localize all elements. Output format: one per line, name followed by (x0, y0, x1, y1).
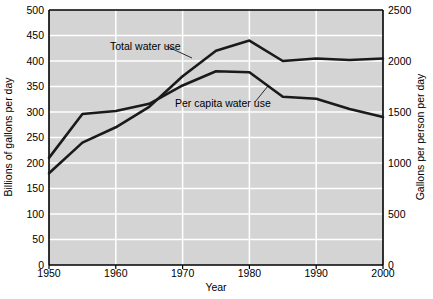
y-tick-label-left: 300 (26, 106, 44, 118)
y-tick-label-left: 450 (26, 29, 44, 41)
y-tick-label-left: 500 (26, 4, 44, 16)
annotation-total-water-use: Total water use (110, 40, 181, 52)
x-axis-title: Year (205, 281, 227, 293)
y-tick-label-left: 100 (26, 208, 44, 220)
y-tick-label-left: 350 (26, 80, 44, 92)
y-tick-label-right: 1000 (388, 157, 412, 169)
y-tick-label-right: 2500 (388, 4, 412, 16)
y-tick-label-left: 250 (26, 131, 44, 143)
annotation-per-capita-water-use: Per capita water use (175, 97, 271, 109)
y-tick-label-right: 2000 (388, 55, 412, 67)
y-tick-label-right: 1500 (388, 106, 412, 118)
y-tick-label-left: 150 (26, 182, 44, 194)
y-axis-left-title: Billions of gallons per day (2, 77, 14, 197)
y-tick-label-left: 400 (26, 55, 44, 67)
chart-canvas: 050100150200250300350400450500 050010001… (0, 0, 433, 299)
y-tick-label-right: 500 (388, 208, 406, 220)
water-use-line-chart: 050100150200250300350400450500 050010001… (0, 0, 433, 299)
y-tick-label-left: 50 (32, 233, 44, 245)
y-axis-right-title: Gallons per person per day (414, 73, 426, 200)
y-tick-label-left: 200 (26, 157, 44, 169)
